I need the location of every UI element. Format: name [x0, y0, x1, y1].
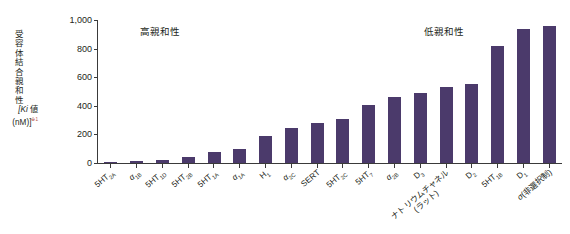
x-axis-label: α1B	[127, 168, 144, 185]
x-label-subscript: 2B	[185, 172, 194, 181]
y-axis-tick-label: 800	[40, 44, 92, 54]
bar-slot	[511, 20, 537, 163]
x-axis-tick-mark	[497, 163, 498, 168]
x-axis-tick-mark	[162, 163, 163, 168]
x-label-slot: 5HT2B	[174, 168, 200, 234]
y-axis-tick-label: 0	[40, 158, 92, 168]
bar-slot	[433, 20, 459, 163]
x-axis-label: 5HT2C	[325, 168, 350, 192]
bar	[465, 84, 478, 163]
bar-slot	[356, 20, 382, 163]
bar-slot	[330, 20, 356, 163]
x-axis-tick-mark	[317, 163, 318, 168]
x-axis-label: α1A	[230, 168, 247, 185]
bar	[491, 46, 504, 163]
annotation-high-affinity: 高親和性	[140, 24, 180, 38]
bar-slot	[98, 20, 124, 163]
x-axis-tick-mark	[110, 163, 111, 168]
x-label-subscript: 2B	[391, 172, 400, 181]
y-axis-tick-mark	[94, 163, 99, 164]
x-label-slot: 5HT1D	[149, 168, 175, 234]
x-label-slot: 5HT1B	[484, 168, 510, 234]
x-axis-tick-mark	[394, 163, 395, 168]
y-axis-title: 受容体結合親和性 [Ki 値 (nM)]※1	[2, 30, 36, 165]
y-axis-unit-nm: (nM)]	[12, 118, 31, 127]
x-label-slot: 5HT2A	[97, 168, 123, 234]
x-axis-tick-mark	[471, 163, 472, 168]
y-axis-tick-label: 1,000	[40, 15, 92, 25]
x-axis-tick-mark	[291, 163, 292, 168]
bar-series	[98, 20, 562, 163]
y-axis-tick-label: 400	[40, 101, 92, 111]
bar-slot	[201, 20, 227, 163]
x-axis-label: α2B	[385, 168, 402, 185]
bar-slot	[253, 20, 279, 163]
x-label-slot: α1B	[123, 168, 149, 234]
bar-slot	[485, 20, 511, 163]
bar-slot	[382, 20, 408, 163]
x-axis-label: 5HT1D	[144, 168, 169, 192]
bar	[208, 152, 221, 163]
x-label-slot: ナトリウムチャネル(ラット)	[432, 168, 458, 234]
bar	[543, 26, 556, 163]
y-axis-title-char-7: 性	[13, 96, 25, 105]
y-axis-unit-line-2: (nM)]※1	[0, 115, 38, 127]
x-axis-label: D1	[515, 168, 530, 183]
x-label-slot: SERT	[303, 168, 329, 234]
x-axis-tick-mark	[188, 163, 189, 168]
x-label-slot: D2	[458, 168, 484, 234]
x-axis-label: D2	[464, 168, 479, 183]
x-label-subscript: 1D	[159, 172, 168, 181]
bar-slot	[278, 20, 304, 163]
x-axis-label: 5HT7	[353, 168, 375, 190]
x-label-subscript: 1A	[211, 172, 220, 181]
x-label-slot: α2C	[277, 168, 303, 234]
bar-slot	[304, 20, 330, 163]
bar-slot	[124, 20, 150, 163]
x-axis-tick-mark	[239, 163, 240, 168]
x-label-subscript: 2A	[108, 172, 117, 181]
y-axis-tick-label: 200	[40, 129, 92, 139]
y-axis-unit-kanji: 値	[30, 105, 38, 114]
x-axis-tick-mark	[446, 163, 447, 168]
x-axis-tick-mark	[265, 163, 266, 168]
x-axis-tick-mark	[420, 163, 421, 168]
x-label-slot: σ(非選択制)	[535, 168, 561, 234]
x-label-slot: 5HT2C	[329, 168, 355, 234]
plot-area: 02004006008001,000	[97, 20, 562, 164]
bar	[285, 128, 298, 163]
x-label-slot: 5HT1A	[200, 168, 226, 234]
bar	[440, 87, 453, 164]
bar	[233, 149, 246, 163]
bar-slot	[459, 20, 485, 163]
y-axis-title-vertical-chars: 受容体結合親和性	[13, 30, 25, 105]
x-axis-label: 5HT2B	[170, 168, 195, 192]
x-axis-tick-mark	[549, 163, 550, 168]
y-axis-unit-line-1: [Ki 値	[0, 105, 38, 115]
bar	[311, 123, 324, 163]
bar	[259, 136, 272, 163]
x-axis-label: 5HT2A	[93, 168, 118, 192]
x-axis-label: SERT	[300, 168, 322, 189]
x-label-subscript: 2C	[339, 172, 348, 181]
bar-slot	[407, 20, 433, 163]
x-axis-label: 5HT1B	[480, 168, 505, 192]
x-label-slot: H1	[252, 168, 278, 234]
receptor-binding-affinity-chart: 受容体結合親和性 [Ki 値 (nM)]※1 02004006008001,00…	[0, 0, 570, 234]
x-axis-label: α2C	[281, 168, 298, 185]
x-axis-label: D3	[412, 168, 427, 183]
footnote-reference-mark: ※1	[31, 117, 38, 122]
x-axis-tick-mark	[342, 163, 343, 168]
x-label-slot: 5HT7	[355, 168, 381, 234]
x-axis-tick-mark	[523, 163, 524, 168]
y-axis-tick-label: 600	[40, 72, 92, 82]
x-axis-tick-mark	[213, 163, 214, 168]
x-label-subscript: 2C	[288, 172, 297, 181]
bar	[336, 119, 349, 163]
bar-slot	[536, 20, 562, 163]
bar	[414, 93, 427, 163]
x-axis-label: H1	[258, 168, 273, 183]
x-axis-label: 5HT1A	[196, 168, 221, 192]
bar	[388, 97, 401, 163]
bar	[517, 29, 530, 163]
